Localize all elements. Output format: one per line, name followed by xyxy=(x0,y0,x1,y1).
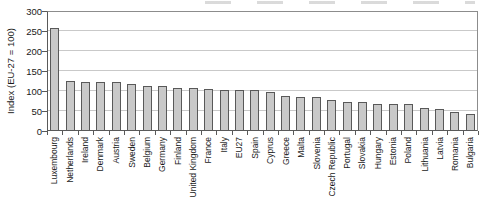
x-label-text: Estonia xyxy=(388,137,398,165)
x-tick-mark xyxy=(278,131,279,135)
gridline-200 xyxy=(48,50,477,51)
x-tick-mark xyxy=(216,131,217,135)
x-label-text: Latvia xyxy=(435,137,445,160)
x-tick-mark xyxy=(62,131,63,135)
x-tick-mark xyxy=(386,131,387,135)
x-label-text: Czech Republic xyxy=(327,137,337,197)
y-tick-mark xyxy=(42,91,47,92)
x-label-text: United Kingdom xyxy=(188,137,198,197)
x-label-text: Netherlands xyxy=(65,137,75,183)
y-tick-label-100: 100 xyxy=(8,86,42,97)
bar-slovenia xyxy=(312,97,321,130)
bar-united-kingdom xyxy=(189,88,198,130)
x-tick-mark xyxy=(463,131,464,135)
y-tick-mark xyxy=(42,111,47,112)
x-tick-mark xyxy=(93,131,94,135)
x-tick-mark xyxy=(339,131,340,135)
x-tick-mark xyxy=(139,131,140,135)
x-label-text: Austria xyxy=(111,137,121,163)
bar-poland xyxy=(404,104,413,130)
x-label-text: Greece xyxy=(281,137,291,165)
x-tick-mark xyxy=(232,131,233,135)
x-tick-mark xyxy=(293,131,294,135)
bar-sweden xyxy=(127,84,136,130)
y-tick-label-0: 0 xyxy=(8,126,42,137)
x-tick-mark xyxy=(370,131,371,135)
x-tick-mark xyxy=(109,131,110,135)
cropped-title-artifact xyxy=(205,1,475,4)
x-label-text: Finland xyxy=(173,137,183,165)
bar-spain xyxy=(250,90,259,130)
bar-romania xyxy=(450,112,459,130)
x-tick-mark xyxy=(401,131,402,135)
bar-lithuania xyxy=(420,108,429,130)
x-label-text: Slovakia xyxy=(358,137,368,169)
x-label-text: Sweden xyxy=(127,137,137,168)
x-label-text: Cyprus xyxy=(265,137,275,164)
x-label-text: France xyxy=(204,137,214,163)
x-tick-mark xyxy=(355,131,356,135)
x-tick-mark xyxy=(124,131,125,135)
y-tick-mark xyxy=(42,51,47,52)
bar-luxembourg xyxy=(50,28,59,130)
x-label-text: Lithuania xyxy=(419,137,429,172)
plot-area xyxy=(47,11,478,131)
x-label-text: Luxembourg xyxy=(50,137,60,184)
bar-chart: Index (EU-27 = 100) 050100150200250300 L… xyxy=(0,0,483,222)
bar-bulgaria xyxy=(466,114,475,130)
x-tick-mark xyxy=(78,131,79,135)
x-label-text: Slovenia xyxy=(311,137,321,170)
gridline-150 xyxy=(48,70,477,71)
y-tick-mark xyxy=(42,11,47,12)
bar-eu27 xyxy=(235,90,244,130)
bar-slovakia xyxy=(358,102,367,130)
bar-hungary xyxy=(373,104,382,130)
bar-latvia xyxy=(435,109,444,130)
bar-belgium xyxy=(143,86,152,130)
y-tick-label-200: 200 xyxy=(8,46,42,57)
y-tick-mark xyxy=(42,71,47,72)
bar-germany xyxy=(158,86,167,130)
x-label-text: Bulgaria xyxy=(465,137,475,168)
bar-finland xyxy=(173,88,182,130)
x-tick-mark xyxy=(170,131,171,135)
x-tick-mark xyxy=(432,131,433,135)
x-label-text: Denmark xyxy=(96,137,106,171)
y-tick-label-250: 250 xyxy=(8,26,42,37)
bar-estonia xyxy=(389,104,398,130)
bar-netherlands xyxy=(66,81,75,130)
bar-malta xyxy=(296,97,305,130)
x-tick-mark xyxy=(416,131,417,135)
bar-czech-republic xyxy=(327,100,336,130)
x-label-text: Portugal xyxy=(342,137,352,169)
y-tick-label-150: 150 xyxy=(8,66,42,77)
x-label-text: Romania xyxy=(450,137,460,171)
x-tick-mark xyxy=(186,131,187,135)
bar-ireland xyxy=(81,82,90,130)
bar-italy xyxy=(220,90,229,130)
y-tick-label-300: 300 xyxy=(8,6,42,17)
x-tick-mark xyxy=(155,131,156,135)
x-label-text: Ireland xyxy=(80,137,90,163)
y-tick-mark xyxy=(42,31,47,32)
x-tick-mark xyxy=(447,131,448,135)
x-tick-mark xyxy=(263,131,264,135)
y-tick-label-50: 50 xyxy=(8,106,42,117)
x-tick-mark xyxy=(309,131,310,135)
bar-greece xyxy=(281,96,290,130)
x-tick-mark xyxy=(324,131,325,135)
bar-portugal xyxy=(343,102,352,130)
bar-france xyxy=(204,89,213,130)
x-label-text: EU27 xyxy=(234,137,244,158)
bar-cyprus xyxy=(266,92,275,130)
x-tick-mark xyxy=(247,131,248,135)
x-label-text: Spain xyxy=(250,137,260,159)
bar-austria xyxy=(112,82,121,130)
x-tick-mark xyxy=(47,131,48,135)
x-label-text: Belgium xyxy=(142,137,152,168)
x-label-text: Malta xyxy=(296,137,306,158)
bar-denmark xyxy=(96,82,105,130)
x-label-text: Italy xyxy=(219,137,229,153)
x-label-text: Hungary xyxy=(373,137,383,169)
x-label-text: Germany xyxy=(157,137,167,172)
